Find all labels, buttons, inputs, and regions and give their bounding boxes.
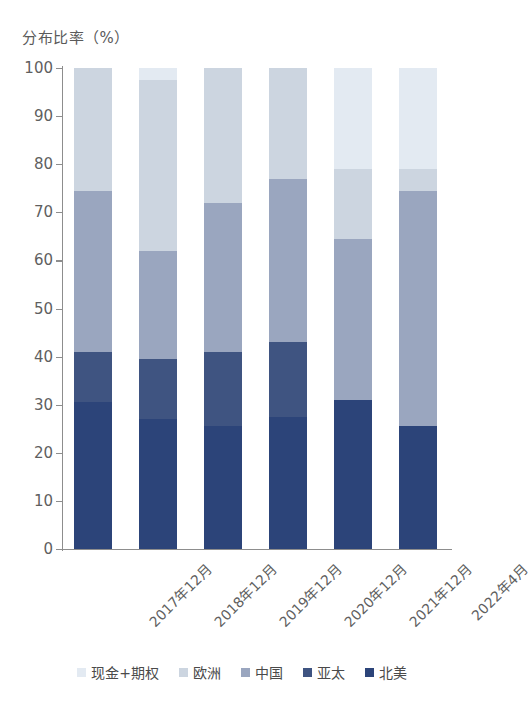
y-tick-label: 90 bbox=[34, 107, 53, 125]
bar-segment-亚太[interactable] bbox=[269, 342, 307, 417]
bar-segment-中国[interactable] bbox=[204, 203, 242, 352]
x-tick-label: 2018年12月 bbox=[208, 559, 280, 631]
x-tick-label: 2020年12月 bbox=[338, 559, 410, 631]
legend-swatch-icon bbox=[303, 668, 312, 677]
x-tick-label: 2017年12月 bbox=[143, 559, 215, 631]
legend-label: 中国 bbox=[255, 662, 283, 682]
x-tick-label: 2021年12月 bbox=[403, 559, 475, 631]
bar-segment-中国[interactable] bbox=[269, 179, 307, 343]
y-tick-label: 50 bbox=[34, 300, 53, 318]
chart-title: 分布比率（%） bbox=[22, 26, 130, 47]
bar-segment-北美[interactable] bbox=[139, 419, 177, 549]
bar-segment-欧洲[interactable] bbox=[269, 68, 307, 179]
legend-swatch-icon bbox=[365, 668, 374, 677]
legend-label: 欧洲 bbox=[193, 662, 221, 682]
plot-area: 1009080706050403020100 bbox=[62, 68, 452, 549]
legend-item-欧洲[interactable]: 欧洲 bbox=[179, 662, 221, 682]
y-tick-label: 30 bbox=[34, 396, 53, 414]
bar-segment-亚太[interactable] bbox=[204, 352, 242, 427]
bar-2022年4月[interactable] bbox=[399, 68, 437, 549]
legend-swatch-icon bbox=[179, 668, 188, 677]
legend-item-北美[interactable]: 北美 bbox=[365, 662, 407, 682]
bar-segment-中国[interactable] bbox=[139, 251, 177, 359]
legend-swatch-icon bbox=[77, 668, 86, 677]
bar-segment-欧洲[interactable] bbox=[399, 169, 437, 191]
bar-2017年12月[interactable] bbox=[74, 68, 112, 549]
bar-2021年12月[interactable] bbox=[334, 68, 372, 549]
bar-group bbox=[62, 68, 452, 549]
bar-segment-欧洲[interactable] bbox=[139, 80, 177, 251]
bar-segment-中国[interactable] bbox=[334, 239, 372, 400]
bar-segment-亚太[interactable] bbox=[139, 359, 177, 419]
x-axis-line bbox=[62, 549, 452, 550]
bar-segment-亚太[interactable] bbox=[74, 352, 112, 403]
y-tick-label: 70 bbox=[34, 203, 53, 221]
bar-segment-北美[interactable] bbox=[74, 402, 112, 549]
y-tick-label: 20 bbox=[34, 444, 53, 462]
legend-item-亚太[interactable]: 亚太 bbox=[303, 662, 345, 682]
bar-segment-欧洲[interactable] bbox=[334, 169, 372, 239]
y-tick-label: 80 bbox=[34, 155, 53, 173]
y-tick-label: 40 bbox=[34, 348, 53, 366]
chart-legend: 现金+期权欧洲中国亚太北美 bbox=[0, 662, 484, 682]
bar-segment-现金+期权[interactable] bbox=[139, 68, 177, 80]
bar-segment-欧洲[interactable] bbox=[74, 68, 112, 191]
y-tick-label: 60 bbox=[34, 251, 53, 269]
bar-segment-现金+期权[interactable] bbox=[399, 68, 437, 169]
bar-segment-北美[interactable] bbox=[269, 417, 307, 549]
legend-label: 亚太 bbox=[317, 662, 345, 682]
bar-segment-北美[interactable] bbox=[204, 426, 242, 549]
bar-2019年12月[interactable] bbox=[204, 68, 242, 549]
legend-swatch-icon bbox=[241, 668, 250, 677]
x-tick-label: 2019年12月 bbox=[273, 559, 345, 631]
bar-segment-欧洲[interactable] bbox=[204, 68, 242, 203]
bar-segment-现金+期权[interactable] bbox=[334, 68, 372, 169]
bar-2018年12月[interactable] bbox=[139, 68, 177, 549]
bar-2020年12月[interactable] bbox=[269, 68, 307, 549]
bar-segment-北美[interactable] bbox=[399, 426, 437, 549]
legend-label: 北美 bbox=[379, 662, 407, 682]
y-tick-label: 0 bbox=[43, 540, 53, 558]
bar-segment-中国[interactable] bbox=[399, 191, 437, 427]
bar-segment-中国[interactable] bbox=[74, 191, 112, 352]
legend-label: 现金+期权 bbox=[91, 662, 159, 682]
legend-item-现金+期权[interactable]: 现金+期权 bbox=[77, 662, 159, 682]
x-tick-label: 2022年4月 bbox=[466, 559, 531, 624]
y-tick-mark bbox=[56, 549, 62, 550]
legend-item-中国[interactable]: 中国 bbox=[241, 662, 283, 682]
bar-segment-北美[interactable] bbox=[334, 400, 372, 549]
y-tick-label: 10 bbox=[34, 492, 53, 510]
y-tick-label: 100 bbox=[24, 59, 53, 77]
